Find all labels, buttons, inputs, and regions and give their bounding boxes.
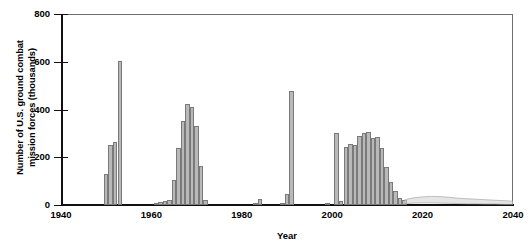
x-tick-label: 1960 (124, 209, 178, 220)
y-tick-mark (54, 157, 61, 158)
bar (334, 133, 339, 205)
x-tick-label: 2020 (396, 209, 450, 220)
bar (325, 203, 330, 205)
x-tick-label: 2000 (305, 209, 359, 220)
y-tick-mark (54, 62, 61, 63)
x-tick-label: 1980 (215, 209, 269, 220)
x-tick-label: 2040 (486, 209, 528, 220)
y-tick-mark (54, 110, 61, 111)
bar (203, 200, 208, 205)
y-tick-label: 200 (0, 151, 50, 162)
y-tick-label: 800 (0, 8, 50, 19)
y-tick-label: 600 (0, 56, 50, 67)
y-tick-mark (54, 14, 61, 15)
y-tick-label: 400 (0, 104, 50, 115)
x-axis-title: Year (61, 230, 513, 241)
bar (402, 200, 407, 205)
bar (118, 61, 123, 205)
bar (289, 91, 294, 205)
bar (258, 199, 263, 205)
y-tick-mark (54, 205, 61, 206)
bar (199, 166, 204, 205)
bars-layer (61, 14, 513, 205)
x-tick-label: 1940 (34, 209, 88, 220)
